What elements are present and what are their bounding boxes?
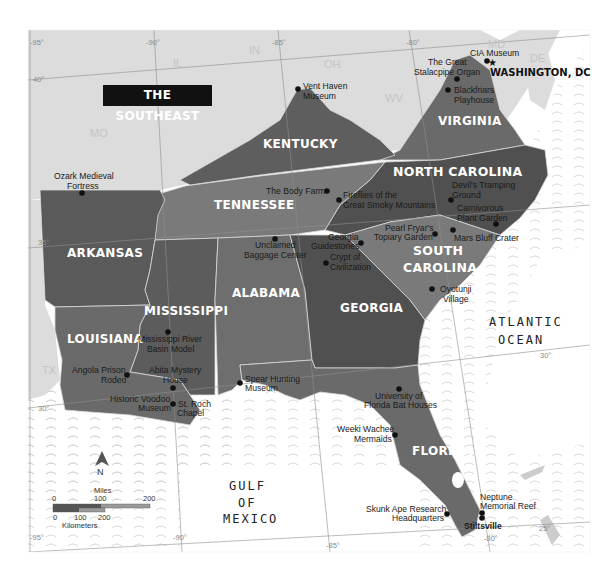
poi-dot-abita[interactable] bbox=[170, 385, 176, 391]
poi-label-guidestones-2[interactable]: Guidestones bbox=[311, 241, 359, 251]
grid-label-lon-80-bottom: -80° bbox=[484, 534, 498, 543]
poi-label-unclaimed-1[interactable]: Unclaimed bbox=[255, 240, 296, 250]
poi-label-ms-basin-1[interactable]: Mississippi River bbox=[138, 334, 202, 344]
gulf-label-1: GULF bbox=[229, 479, 266, 493]
atlantic-label-2: OCEAN bbox=[498, 333, 544, 347]
poi-label-stalacpipe-2[interactable]: Stalacpipe Organ bbox=[414, 67, 481, 77]
poi-label-angola-1[interactable]: Angola Prison bbox=[72, 365, 126, 375]
neighbor-in: IN bbox=[249, 44, 260, 56]
poi-label-fireflies-1[interactable]: Fireflies of the bbox=[343, 190, 397, 200]
poi-label-stiltsville[interactable]: Stiltsville bbox=[464, 521, 502, 531]
poi-dot-carnivorous[interactable] bbox=[493, 221, 499, 227]
poi-dot-fireflies[interactable] bbox=[336, 197, 342, 203]
scale-km-label: Kilometers bbox=[62, 521, 98, 530]
state-label-kentucky: KENTUCKY bbox=[263, 137, 338, 151]
grid-label-lat-35: 35° bbox=[38, 238, 49, 247]
poi-label-voodoo-2[interactable]: Museum bbox=[138, 403, 171, 413]
gulf-label-2: OF bbox=[238, 496, 256, 510]
poi-label-stalacpipe-1[interactable]: The Great bbox=[428, 57, 467, 67]
poi-label-ms-basin-2[interactable]: Basin Model bbox=[147, 344, 194, 354]
poi-label-oyotunji-1[interactable]: Oyotunji bbox=[440, 284, 472, 294]
poi-label-st-roch-2[interactable]: Chapel bbox=[177, 408, 204, 418]
state-label-louisiana: LOUISIANA bbox=[67, 332, 143, 346]
poi-label-ozark-2[interactable]: Fortress bbox=[67, 181, 99, 191]
poi-dot-neptune[interactable] bbox=[479, 510, 485, 516]
scale-miles-tick-100: 100 bbox=[94, 494, 107, 503]
poi-dot-skunk-ape[interactable] bbox=[444, 511, 450, 517]
grid-label-lon-85-bottom: -85° bbox=[326, 541, 340, 550]
scale-miles-tick-0: 0 bbox=[52, 494, 56, 503]
poi-label-body-farm[interactable]: The Body Farm bbox=[266, 186, 325, 196]
poi-dot-spear[interactable] bbox=[237, 380, 243, 386]
poi-label-vent-haven-2[interactable]: Museum bbox=[303, 91, 336, 101]
poi-label-angola-2[interactable]: Rodeo bbox=[101, 375, 127, 385]
neighbor-tx: TX bbox=[42, 364, 57, 376]
poi-label-abita-2[interactable]: House bbox=[163, 375, 188, 385]
poi-label-devils-1[interactable]: Devil's Tramping bbox=[452, 180, 515, 190]
poi-label-oyotunji-2[interactable]: Village bbox=[443, 294, 469, 304]
state-label-virginia: VIRGINIA bbox=[438, 114, 502, 128]
poi-label-blackfriars-1[interactable]: Blackfriars bbox=[454, 85, 494, 95]
poi-dot-mars-bluff[interactable] bbox=[450, 227, 456, 233]
poi-dot-stalacpipe[interactable] bbox=[454, 76, 460, 82]
poi-dot-pearl[interactable] bbox=[432, 231, 438, 237]
poi-label-mars-bluff[interactable]: Mars Bluff Crater bbox=[454, 233, 519, 243]
grid-label-lat-40: 40° bbox=[33, 75, 44, 84]
capital-label: WASHINGTON, DC bbox=[490, 67, 591, 78]
neighbor-il: IL bbox=[173, 57, 182, 69]
poi-label-unclaimed-2[interactable]: Baggage Center bbox=[244, 250, 307, 260]
poi-label-blackfriars-2[interactable]: Playhouse bbox=[454, 95, 494, 105]
poi-dot-voodoo[interactable] bbox=[170, 401, 176, 407]
poi-dot-weeki[interactable] bbox=[392, 432, 398, 438]
poi-label-crypt-2[interactable]: Civilization bbox=[330, 262, 371, 272]
atlantic-label-1: ATLANTIC bbox=[489, 315, 563, 329]
state-label-south-carolina-2: CAROLINA bbox=[403, 260, 477, 275]
poi-label-neptune-2[interactable]: Memorial Reef bbox=[480, 501, 536, 511]
poi-dot-crypt[interactable] bbox=[323, 260, 329, 266]
poi-dot-vent-haven[interactable] bbox=[295, 86, 301, 92]
poi-label-carnivorous-1[interactable]: Carnivorous bbox=[457, 203, 503, 213]
north-label: N bbox=[97, 467, 104, 477]
poi-label-pearl-2[interactable]: Topiary Garden bbox=[374, 232, 433, 242]
poi-label-fireflies-2[interactable]: Great Smoky Mountains bbox=[343, 200, 435, 210]
grid-label-lon-85-top: -85° bbox=[272, 38, 286, 47]
poi-label-devils-2[interactable]: Ground bbox=[452, 190, 481, 200]
grid-label-lat-25: 25° bbox=[539, 524, 550, 533]
map-title: THE SOUTHEAST bbox=[103, 85, 212, 106]
poi-label-vent-haven-1[interactable]: Vent Haven bbox=[303, 81, 348, 91]
state-label-alabama: ALABAMA bbox=[232, 286, 300, 300]
neighbor-mo: MO bbox=[90, 127, 108, 139]
poi-dot-devils[interactable] bbox=[448, 197, 454, 203]
state-label-south-carolina-1: SOUTH bbox=[413, 243, 463, 258]
state-label-tennessee: TENNESSEE bbox=[214, 198, 295, 212]
grid-label-lon-95-top: -95° bbox=[30, 38, 44, 47]
poi-label-abita-1[interactable]: Abita Mystery bbox=[149, 365, 202, 375]
poi-label-ozark-1[interactable]: Ozark Medieval bbox=[54, 171, 114, 181]
poi-label-bat-houses-2[interactable]: Florida Bat Houses bbox=[364, 400, 437, 410]
poi-label-cia-museum[interactable]: CIA Museum bbox=[470, 48, 519, 58]
neighbor-oh: OH bbox=[324, 58, 341, 70]
scale-km-tick-200: 200 bbox=[98, 513, 111, 522]
poi-label-weeki-1[interactable]: Weeki Wachee bbox=[337, 424, 395, 434]
state-label-mississippi: MISSISSIPPI bbox=[144, 304, 228, 318]
poi-label-carnivorous-2[interactable]: Plant Garden bbox=[457, 213, 508, 223]
grid-label-lon-90-bottom: -90° bbox=[173, 533, 187, 542]
poi-dot-guidestones[interactable] bbox=[358, 240, 364, 246]
scale-miles-tick-200: 200 bbox=[143, 494, 156, 503]
poi-dot-blackfriars[interactable] bbox=[445, 87, 451, 93]
poi-label-weeki-2[interactable]: Mermaids bbox=[354, 434, 392, 444]
poi-dot-stiltsville[interactable] bbox=[479, 515, 485, 521]
gulf-label-3: MEXICO bbox=[223, 512, 278, 526]
poi-dot-angola[interactable] bbox=[124, 372, 130, 378]
poi-dot-ozark[interactable] bbox=[79, 190, 85, 196]
poi-label-skunk-ape-2[interactable]: Headquarters bbox=[392, 513, 444, 523]
poi-label-spear-2[interactable]: Museum bbox=[245, 383, 278, 393]
state-label-florida: FLORIDA bbox=[412, 444, 473, 458]
grid-label-lat-30-east: 30° bbox=[540, 351, 551, 360]
poi-dot-body-farm[interactable] bbox=[324, 188, 330, 194]
poi-label-crypt-1[interactable]: Crypt of bbox=[330, 252, 361, 262]
state-label-georgia: GEORGIA bbox=[340, 301, 404, 315]
grid-label-lon-90-top: -90° bbox=[146, 38, 160, 47]
state-label-north-carolina: NORTH CAROLINA bbox=[393, 164, 523, 179]
poi-dot-oyotunji[interactable] bbox=[429, 286, 435, 292]
